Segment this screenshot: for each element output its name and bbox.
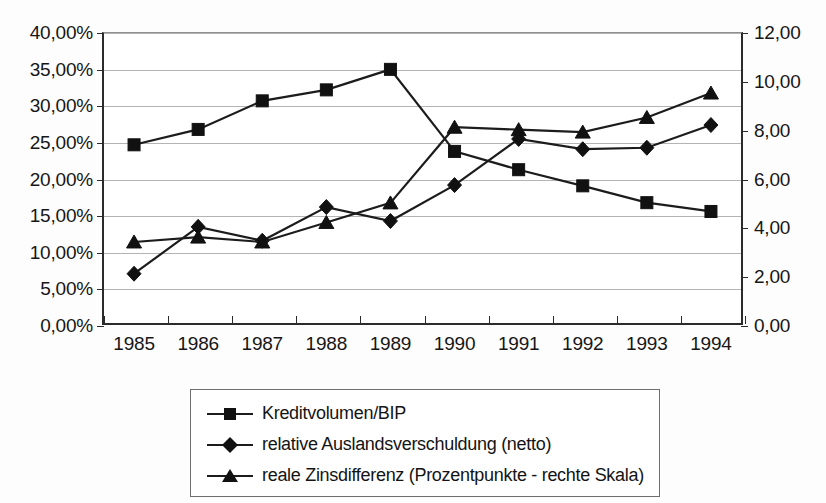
right-axis-tick-label: 8,00 — [754, 120, 790, 142]
x-axis-tick-label: 1993 — [626, 333, 667, 355]
right-axis-tick-label: 0,00 — [754, 315, 790, 337]
x-axis-tick-label: 1985 — [113, 333, 154, 355]
right-axis-tick-label: 10,00 — [754, 71, 801, 93]
data-point-diamond — [704, 118, 718, 133]
data-point-square — [128, 139, 140, 151]
right-axis-tick-label: 12,00 — [754, 22, 801, 44]
series-layer — [102, 32, 743, 325]
data-point-square — [320, 84, 332, 96]
legend-label-auslandsverschuldung: relative Auslandsverschuldung (netto) — [262, 434, 551, 455]
chart-page: 0,00%5,00%10,00%15,00%20,00%25,00%30,00%… — [0, 0, 826, 503]
chart-plot-area: 0,00%5,00%10,00%15,00%20,00%25,00%30,00%… — [0, 0, 826, 390]
x-axis-tick-label: 1991 — [498, 333, 539, 355]
legend-marker-diamond — [207, 436, 253, 454]
right-axis-tick-label: 6,00 — [754, 169, 790, 191]
left-axis-tick-label: 25,00% — [30, 132, 93, 154]
left-axis-tick-label: 40,00% — [30, 22, 93, 44]
legend-label-zinsdifferenz: reale Zinsdifferenz (Prozentpunkte - rec… — [262, 465, 644, 486]
left-axis-tick-label: 10,00% — [30, 242, 93, 264]
x-axis-tick-label: 1992 — [562, 333, 603, 355]
x-axis-tick-label: 1990 — [434, 333, 475, 355]
series-line — [134, 69, 711, 211]
data-point-diamond — [127, 266, 141, 281]
data-point-diamond — [319, 200, 333, 215]
x-axis-tick-label: 1987 — [242, 333, 283, 355]
data-point-square — [577, 180, 589, 192]
left-axis-tick-label: 30,00% — [30, 95, 93, 117]
series-line — [134, 125, 711, 274]
legend-item-zinsdifferenz: reale Zinsdifferenz (Prozentpunkte - rec… — [191, 460, 659, 491]
left-axis-tick — [97, 326, 104, 327]
x-axis-tick-label: 1986 — [177, 333, 218, 355]
series-line — [134, 93, 711, 242]
series-1 — [128, 63, 717, 217]
series-2 — [127, 118, 718, 282]
legend-item-auslandsverschuldung: relative Auslandsverschuldung (netto) — [191, 429, 659, 460]
left-axis-tick-label: 20,00% — [30, 169, 93, 191]
data-point-triangle — [703, 86, 718, 99]
data-point-diamond — [383, 213, 397, 228]
chart-legend: Kreditvolumen/BIP relative Auslandsversc… — [190, 389, 660, 497]
data-point-diamond — [448, 178, 462, 193]
right-axis-tick-label: 2,00 — [754, 266, 790, 288]
left-axis-tick-label: 0,00% — [40, 315, 93, 337]
left-axis-tick-label: 15,00% — [30, 205, 93, 227]
data-point-square — [192, 123, 204, 135]
data-point-square — [449, 145, 461, 157]
data-point-triangle — [639, 110, 654, 123]
x-axis-tick-label: 1989 — [370, 333, 411, 355]
right-axis-tick-label: 4,00 — [754, 217, 790, 239]
left-axis-tick-label: 35,00% — [30, 59, 93, 81]
x-axis-tick-label: 1994 — [690, 333, 731, 355]
legend-marker-triangle — [207, 467, 253, 485]
right-axis-tick — [741, 326, 748, 327]
legend-label-kreditvolumen: Kreditvolumen/BIP — [262, 403, 406, 424]
legend-marker-square — [207, 405, 253, 423]
data-point-square — [705, 205, 717, 217]
left-axis-tick-label: 5,00% — [40, 278, 93, 300]
legend-item-kreditvolumen: Kreditvolumen/BIP — [191, 398, 659, 429]
data-point-diamond — [640, 140, 654, 155]
data-point-square — [513, 164, 525, 176]
data-point-square — [384, 63, 396, 75]
data-point-square — [256, 95, 268, 107]
data-point-square — [641, 197, 653, 209]
x-axis-tick-label: 1988 — [306, 333, 347, 355]
data-point-diamond — [576, 142, 590, 157]
x-axis-tick — [745, 316, 746, 324]
